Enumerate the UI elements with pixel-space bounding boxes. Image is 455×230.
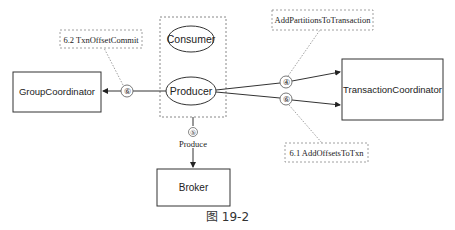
txn-offset-commit-label: 6.2 TxnOffsetCommit bbox=[63, 35, 139, 45]
add-offsets-label: 6.1 AddOffsetsToTxn bbox=[290, 148, 365, 158]
group-coordinator-label: GroupCoordinator bbox=[19, 86, 95, 97]
transaction-coordinator-node: TransactionCoordinator bbox=[342, 59, 443, 120]
step-6-txn-marker: ⑥ bbox=[283, 95, 290, 104]
step-5-marker: ⑤ bbox=[190, 129, 196, 136]
consumer-node: Consumer bbox=[167, 26, 216, 52]
consumer-label: Consumer bbox=[167, 33, 216, 45]
figure-caption: 图 19-2 bbox=[0, 207, 455, 224]
broker-label: Broker bbox=[179, 182, 209, 193]
producer-label: Producer bbox=[170, 85, 213, 97]
add-partitions-label: AddPartitionsToTransaction bbox=[275, 15, 372, 25]
broker-node: Broker bbox=[157, 169, 230, 206]
step-6-group-marker: ⑥ bbox=[124, 87, 131, 96]
edge-produce: ⑤ Produce bbox=[179, 117, 207, 167]
step-4-marker: ④ bbox=[283, 78, 290, 87]
produce-label: Produce bbox=[179, 139, 207, 149]
group-coordinator-node: GroupCoordinator bbox=[13, 72, 101, 112]
transaction-coordinator-label: TransactionCoordinator bbox=[343, 84, 442, 95]
producer-node: Producer bbox=[166, 77, 216, 105]
